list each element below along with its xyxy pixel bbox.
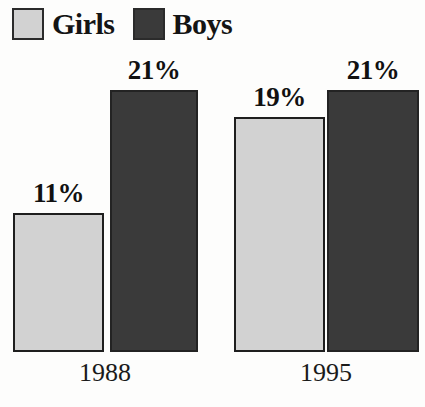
bar-1988-girls[interactable] <box>13 213 104 352</box>
plot-area: 11% 21% 19% 21% 1988 1995 <box>0 0 425 407</box>
bar-value-1988-boys: 21% <box>110 57 198 84</box>
bar-1995-boys[interactable] <box>327 90 419 352</box>
bar-value-1995-boys: 21% <box>327 57 419 84</box>
bar-value-1988-girls: 11% <box>13 180 104 207</box>
axis-label-1995: 1995 <box>276 360 376 386</box>
bar-1988-boys[interactable] <box>110 90 198 352</box>
bar-1995-girls[interactable] <box>234 117 325 352</box>
bar-chart: Girls Boys 11% 21% 19% 21% 1988 1995 <box>0 0 425 407</box>
axis-label-1988: 1988 <box>55 360 155 386</box>
bar-value-1995-girls: 19% <box>234 84 325 111</box>
